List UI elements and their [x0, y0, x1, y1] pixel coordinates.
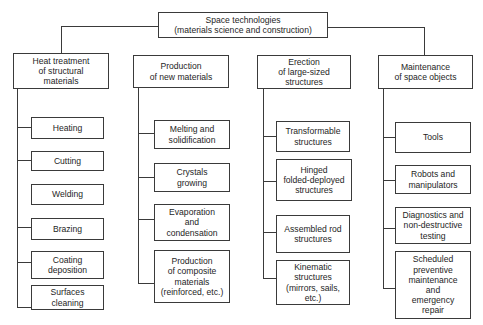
node-label: Evaporation and condensation: [166, 207, 217, 238]
node-label: Coating deposition: [48, 255, 87, 275]
category-label: Maintenance of space objects: [394, 62, 456, 82]
node-label: Melting and solidification: [169, 124, 216, 144]
node-label: Scheduled preventive maintenance and eme…: [408, 254, 457, 315]
node-label: Assembled rod structures: [284, 224, 341, 244]
erection-trunk: [263, 89, 264, 279]
node-label: Brazing: [53, 224, 82, 234]
node-cutting: Cutting: [31, 151, 104, 171]
node-brazing: Brazing: [31, 218, 104, 240]
node-coating-deposition: Coating deposition: [31, 251, 104, 279]
category-label: Production of new materials: [150, 61, 213, 81]
category-erection-structures: Erection of large-sized structures: [257, 55, 351, 89]
connector-cutting: [17, 160, 31, 161]
connector-assembled: [263, 232, 276, 233]
connector-melting: [138, 133, 154, 134]
connector-coating: [17, 262, 31, 263]
root-connector-left-drop: [61, 26, 62, 54]
node-hinged-structures: Hinged folded-deployed structures: [276, 159, 352, 201]
node-label: Welding: [52, 189, 83, 199]
connector-brazing: [17, 227, 31, 228]
category-label: Heat treatment of structural materials: [33, 56, 90, 87]
node-label: Production of composite materials (reinf…: [161, 256, 224, 297]
node-welding: Welding: [31, 184, 104, 205]
connector-surfaces: [17, 307, 31, 308]
connector-transformable: [263, 136, 276, 137]
connector-diagnostics: [383, 228, 395, 229]
node-label: Diagnostics and non-destructive testing: [402, 210, 463, 241]
maintenance-trunk: [383, 89, 384, 289]
root-node-space-technologies: Space technologies (materials science an…: [158, 12, 328, 38]
node-label: Surfaces cleaning: [51, 287, 85, 307]
node-label: Heating: [53, 123, 83, 133]
connector-robots: [383, 180, 395, 181]
category-label: Erection of large-sized structures: [278, 57, 330, 88]
connector-evaporation: [138, 219, 154, 220]
node-heating: Heating: [31, 117, 104, 139]
node-assembled-rod-structures: Assembled rod structures: [276, 215, 350, 253]
node-robots-manipulators: Robots and manipulators: [395, 165, 471, 194]
node-diagnostics-testing: Diagnostics and non-destructive testing: [395, 207, 471, 244]
connector-scheduled: [383, 288, 395, 289]
node-transformable-structures: Transformable structures: [276, 121, 350, 152]
production-trunk: [138, 88, 139, 284]
node-surfaces-cleaning: Surfaces cleaning: [31, 285, 104, 310]
node-label: Crystals growing: [176, 167, 207, 187]
root-connector-left: [61, 26, 159, 27]
node-evaporation-condensation: Evaporation and condensation: [154, 204, 230, 241]
node-tools: Tools: [395, 122, 471, 153]
connector-kinematic: [263, 278, 276, 279]
connector-tools: [383, 137, 395, 138]
category-maintenance-space-objects: Maintenance of space objects: [378, 55, 473, 89]
node-composite-materials: Production of composite materials (reinf…: [154, 250, 230, 303]
heat-treatment-trunk: [17, 89, 18, 308]
root-node-label: Space technologies (materials science an…: [174, 15, 312, 35]
root-connector-right-drop: [424, 27, 425, 56]
node-label: Transformable structures: [285, 126, 340, 146]
node-scheduled-maintenance-repair: Scheduled preventive maintenance and eme…: [395, 251, 471, 319]
root-connector-right: [327, 27, 424, 28]
connector-composite: [138, 283, 154, 284]
node-label: Robots and manipulators: [408, 169, 457, 189]
connector-heating: [17, 127, 31, 128]
node-label: Tools: [423, 132, 443, 142]
node-melting-solidification: Melting and solidification: [154, 120, 230, 149]
node-crystals-growing: Crystals growing: [154, 163, 230, 192]
connector-crystals: [138, 177, 154, 178]
category-heat-treatment: Heat treatment of structural materials: [13, 53, 109, 89]
node-label: Hinged folded-deployed structures: [283, 165, 344, 196]
connector-hinged: [263, 181, 276, 182]
node-label: Kinematic structures (mirrors, sails, et…: [286, 262, 340, 303]
node-kinematic-structures: Kinematic structures (mirrors, sails, et…: [276, 260, 350, 305]
node-label: Cutting: [54, 156, 81, 166]
category-production-new-materials: Production of new materials: [133, 55, 229, 88]
